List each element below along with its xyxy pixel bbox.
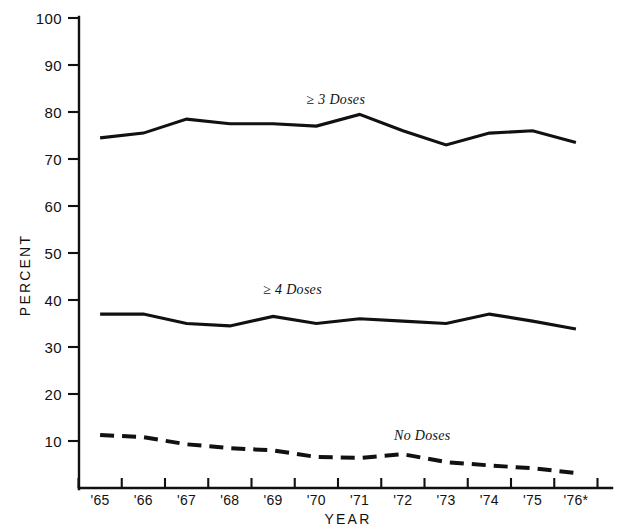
- y-axis-tick-labels: 102030405060708090100: [36, 10, 62, 450]
- x-axis-ticks: [79, 478, 598, 488]
- y-tick-label-40: 40: [45, 292, 63, 309]
- x-tick-label-75: '75: [523, 492, 542, 508]
- series-line-1: [100, 114, 576, 144]
- y-tick-label-30: 30: [45, 339, 63, 356]
- y-tick-label-70: 70: [45, 151, 63, 168]
- y-axis-title: PERCENT: [17, 234, 33, 316]
- x-tick-label-67: '67: [177, 492, 196, 508]
- line-chart: 102030405060708090100 '65'66'67'68'69'70…: [0, 0, 630, 532]
- x-tick-label-72: '72: [393, 492, 412, 508]
- x-tick-label-76: '76*: [563, 492, 588, 508]
- x-tick-label-71: '71: [350, 492, 369, 508]
- x-axis-title: YEAR: [325, 511, 372, 527]
- series-label-1: ≥ 3 Doses: [307, 92, 366, 107]
- y-tick-label-10: 10: [45, 433, 63, 450]
- y-tick-label-80: 80: [45, 104, 63, 121]
- series-line-2: [100, 314, 576, 329]
- y-tick-label-100: 100: [36, 10, 62, 27]
- y-tick-label-90: 90: [45, 57, 63, 74]
- series-line-3: [100, 435, 576, 473]
- x-tick-label-65: '65: [91, 492, 110, 508]
- x-tick-label-70: '70: [307, 492, 326, 508]
- y-tick-label-60: 60: [45, 198, 63, 215]
- x-tick-label-69: '69: [264, 492, 283, 508]
- y-axis-ticks: [68, 18, 79, 441]
- x-tick-label-73: '73: [437, 492, 456, 508]
- x-tick-label-66: '66: [134, 492, 153, 508]
- y-tick-label-50: 50: [45, 245, 63, 262]
- x-axis-tick-labels: '65'66'67'68'69'70'71'72'73'74'75'76*: [91, 492, 589, 508]
- series-label-3: No Doses: [393, 428, 451, 443]
- series-paths-group: [100, 114, 576, 473]
- chart-container: 102030405060708090100 '65'66'67'68'69'70…: [0, 0, 630, 532]
- y-tick-label-20: 20: [45, 386, 63, 403]
- x-tick-label-74: '74: [480, 492, 499, 508]
- series-label-2: ≥ 4 Doses: [263, 282, 322, 297]
- x-tick-label-68: '68: [220, 492, 239, 508]
- series-annotation-labels: ≥ 3 Doses≥ 4 DosesNo Doses: [263, 92, 451, 443]
